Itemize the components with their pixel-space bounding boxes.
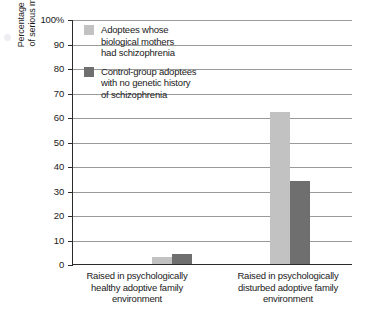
gridline-60 xyxy=(73,118,352,119)
y-tick-label-70: 70 xyxy=(34,89,64,99)
tick-mark-100 xyxy=(68,20,73,21)
y-tick-label-30: 30 xyxy=(34,187,64,197)
x-axis-category-label-1-line-3: environment xyxy=(212,293,364,305)
bar-group-0-series-0 xyxy=(152,257,172,264)
gridline-10 xyxy=(73,241,352,242)
x-axis-category-label-0-line-3: environment xyxy=(62,293,212,305)
x-axis-category-label-0-line-2: healthy adoptive family xyxy=(62,282,212,294)
x-axis-category-label-1: Raised in psychologically disturbed adop… xyxy=(212,270,364,305)
tick-mark-30 xyxy=(68,192,73,193)
y-tick-label-100: 100% xyxy=(34,15,64,25)
tick-mark-90 xyxy=(68,45,73,46)
y-tick-label-10: 10 xyxy=(34,236,64,246)
bar-group-0-series-1 xyxy=(172,254,192,264)
gridline-100 xyxy=(73,20,352,21)
legend-label-series-1-line-2: with no genetic history xyxy=(101,77,190,88)
x-axis-category-label-0: Raised in psychologically healthy adopti… xyxy=(62,270,212,305)
legend-swatch-dark-icon xyxy=(84,67,94,77)
tick-mark-70 xyxy=(68,94,73,95)
tick-mark-50 xyxy=(68,143,73,144)
y-axis-title-line-1: Percentage showing signs xyxy=(16,0,27,47)
gridline-20 xyxy=(73,216,352,217)
tick-mark-40 xyxy=(68,167,73,168)
legend-label-series-1-line-3: of schizophrenia xyxy=(101,89,167,100)
gridline-30 xyxy=(73,192,352,193)
y-tick-label-20: 20 xyxy=(34,211,64,221)
legend-label-series-1-line-1: Control-group adoptees xyxy=(101,66,196,77)
gridline-50 xyxy=(73,143,352,144)
y-tick-label-60: 60 xyxy=(34,113,64,123)
legend-label-series-0: Adoptees whose biological mothers had sc… xyxy=(101,24,175,59)
y-tick-label-0: 0 xyxy=(34,260,64,270)
tick-mark-10 xyxy=(68,241,73,242)
gridline-40 xyxy=(73,167,352,168)
bar-group-1-series-0 xyxy=(270,112,290,264)
legend-label-series-0-line-3: had schizophrenia xyxy=(101,47,175,58)
y-tick-label-40: 40 xyxy=(34,162,64,172)
tick-mark-80 xyxy=(68,69,73,70)
x-axis-category-label-1-line-1: Raised in psychologically xyxy=(212,270,364,282)
y-tick-label-90: 90 xyxy=(34,40,64,50)
legend-label-series-0-line-1: Adoptees whose xyxy=(101,24,168,35)
bar-group-1-series-1 xyxy=(290,181,310,264)
y-tick-label-50: 50 xyxy=(34,138,64,148)
x-axis-category-label-1-line-2: disturbed adoptive family xyxy=(212,282,364,294)
legend-label-series-1: Control-group adoptees with no genetic h… xyxy=(101,66,196,101)
tick-mark-0 xyxy=(68,265,73,266)
tick-mark-60 xyxy=(68,118,73,119)
bar-chart-figure: Percentage showing signs of serious ment… xyxy=(0,0,374,324)
legend-entry-control-group: Control-group adoptees with no genetic h… xyxy=(84,66,234,101)
tick-mark-20 xyxy=(68,216,73,217)
scan-artifact-speck xyxy=(4,34,11,41)
legend-swatch-light-icon xyxy=(84,25,94,35)
x-axis-category-label-0-line-1: Raised in psychologically xyxy=(62,270,212,282)
y-tick-label-80: 80 xyxy=(34,64,64,74)
legend: Adoptees whose biological mothers had sc… xyxy=(84,24,234,107)
legend-entry-adoptees-schizophrenia: Adoptees whose biological mothers had sc… xyxy=(84,24,234,59)
legend-label-series-0-line-2: biological mothers xyxy=(101,36,174,47)
